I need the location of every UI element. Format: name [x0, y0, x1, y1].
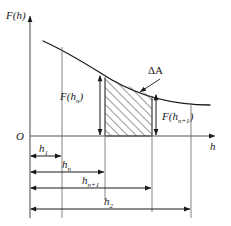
svg-text:F(hn+1): F(hn+1) — [161, 110, 194, 125]
label-F-hn-base: F(h — [59, 90, 76, 103]
label-h1: h1 — [39, 142, 48, 157]
delta-area-label: ΔA — [148, 64, 163, 76]
label-h2: h2 — [104, 195, 114, 210]
x-axis-label: h — [210, 140, 216, 152]
label-F-hn1: F(hn+1) — [161, 110, 194, 125]
delta-area-region — [105, 78, 152, 137]
origin-label: O — [16, 130, 24, 142]
figure-container: F(h) h O ΔA F(hn) F(hn+1) h1 hn — [0, 0, 231, 226]
label-hn-sub: n — [68, 165, 72, 173]
svg-text:hn: hn — [62, 158, 72, 173]
label-hn: hn — [62, 158, 72, 173]
hatched-fill — [105, 78, 152, 137]
label-F-hn1-sub: n+1 — [178, 117, 190, 125]
label-h2-sub: 2 — [110, 202, 114, 210]
svg-text:F(hn): F(hn) — [59, 90, 83, 105]
label-hn1: hn+1 — [82, 174, 99, 189]
label-F-hn1-close: ) — [189, 110, 194, 123]
svg-text:hn+1: hn+1 — [82, 174, 99, 189]
function-area-diagram: F(h) h O ΔA F(hn) F(hn+1) h1 hn — [0, 0, 231, 226]
svg-text:h2: h2 — [104, 195, 114, 210]
label-h1-sub: 1 — [45, 149, 49, 157]
label-F-hn1-base: F(h — [161, 110, 178, 123]
svg-text:h1: h1 — [39, 142, 48, 157]
label-F-hn-close: ) — [78, 90, 83, 103]
label-F-hn: F(hn) — [59, 90, 83, 105]
y-axis-label: F(h) — [5, 9, 26, 22]
delta-area-leader — [140, 79, 160, 92]
label-hn1-sub: n+1 — [88, 181, 100, 189]
